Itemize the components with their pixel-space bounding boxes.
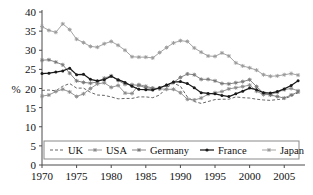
y-tick-label: 25 [25, 63, 37, 75]
x-tick-label: 1985 [135, 170, 158, 182]
data-point-marker [117, 78, 120, 81]
y-tick-label: 20 [25, 83, 37, 95]
data-point-marker [186, 82, 189, 85]
data-point-marker [220, 94, 223, 97]
x-tick-label: 1980 [100, 170, 123, 182]
data-point-marker [227, 95, 230, 98]
y-tick-label: 30 [25, 44, 37, 56]
y-tick-label: 35 [25, 25, 37, 37]
chart-figure: 0510152025303540 19701975198019851990199… [0, 0, 313, 195]
x-tick-label: 1975 [66, 170, 89, 182]
data-point-marker [276, 90, 279, 93]
data-point-marker [283, 87, 286, 90]
legend-label: USA [106, 145, 127, 156]
data-point-marker [165, 84, 168, 87]
chart-legend: UKUSAGermanyFranceJapan [44, 141, 305, 159]
data-point-marker [193, 86, 196, 89]
series-line [42, 83, 298, 103]
series-japan [40, 22, 300, 78]
data-point-marker [158, 86, 161, 89]
data-point-marker [234, 92, 237, 95]
data-point-marker [89, 78, 92, 81]
data-point-marker [172, 80, 175, 83]
legend-label: France [218, 145, 247, 156]
data-point-marker [290, 84, 293, 87]
data-point-marker [54, 71, 57, 74]
data-point-marker [137, 88, 140, 91]
data-point-marker [207, 92, 210, 95]
data-point-marker [110, 75, 113, 78]
data-point-marker [151, 89, 154, 92]
data-point-marker [61, 69, 64, 72]
data-point-marker [47, 72, 50, 75]
data-point-marker [262, 91, 265, 94]
data-point-marker [214, 92, 217, 95]
x-tick-label: 2005 [273, 170, 296, 182]
data-point-marker [41, 72, 44, 75]
data-point-marker [248, 87, 251, 90]
data-point-marker [124, 81, 127, 84]
legend-label: Japan [280, 145, 305, 156]
data-point-marker [241, 90, 244, 93]
y-tick-label: 10 [25, 121, 37, 133]
legend-marker [205, 148, 208, 151]
series-line [42, 24, 298, 76]
data-point-marker [68, 67, 71, 70]
data-point-marker [179, 80, 182, 83]
series-group [40, 22, 300, 104]
data-point-marker [103, 78, 106, 81]
y-tick-label: 5 [31, 140, 37, 152]
x-tick-label: 1970 [31, 170, 54, 182]
x-tick-label: 2000 [239, 170, 262, 182]
y-tick-label: 40 [25, 6, 37, 18]
data-point-marker [200, 91, 203, 94]
y-tick-label: 15 [25, 102, 37, 114]
data-point-marker [297, 79, 300, 82]
data-point-marker [96, 79, 99, 82]
x-tick-label: 1995 [204, 170, 227, 182]
legend-label: UK [68, 145, 84, 156]
data-point-marker [82, 73, 85, 76]
data-point-marker [269, 92, 272, 95]
y-axis-tick-group: 0510152025303540 [25, 6, 42, 171]
data-point-marker [255, 88, 258, 91]
legend-label: Germany [150, 145, 190, 156]
x-axis-tick-group: 19701975198019851990199520002005 [31, 165, 296, 182]
x-tick-label: 1990 [169, 170, 192, 182]
data-point-marker [75, 73, 78, 76]
series-markers [40, 22, 300, 78]
line-chart: 0510152025303540 19701975198019851990199… [0, 0, 313, 195]
data-point-marker [144, 88, 147, 91]
series-uk [42, 83, 298, 103]
y-axis-title: % [11, 83, 20, 95]
data-point-marker [130, 85, 133, 88]
